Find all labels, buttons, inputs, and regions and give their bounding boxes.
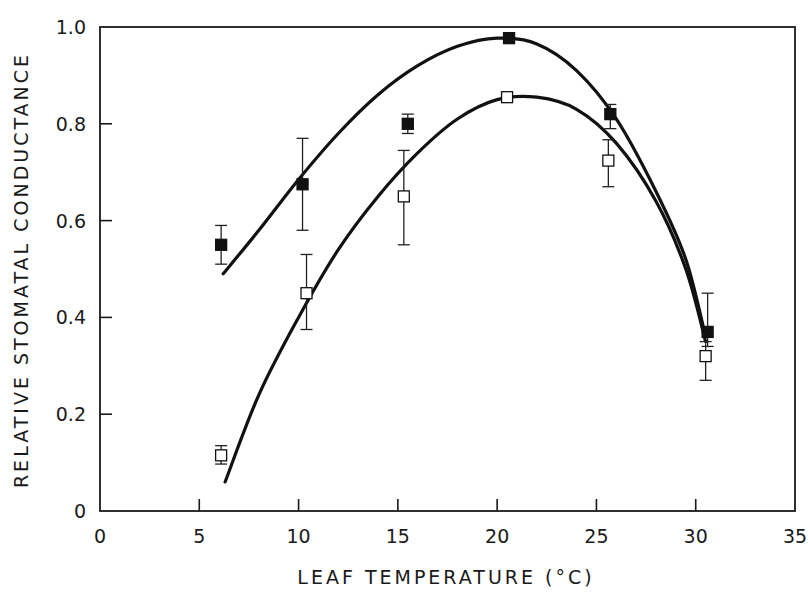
x-tick-label: 30 (684, 525, 708, 547)
fit-curve-open-square (225, 96, 706, 482)
filled-square-marker (702, 326, 713, 337)
open-square-marker (700, 351, 711, 362)
filled-square-marker (297, 179, 308, 190)
chart: 00.20.40.60.81.0 05101520253035 LEAF TEM… (0, 0, 808, 593)
y-axis-ticks: 00.20.40.60.81.0 (56, 16, 112, 522)
x-tick-label: 0 (94, 525, 106, 547)
filled-square-marker (605, 109, 616, 120)
filled-square-marker (402, 118, 413, 129)
open-square-marker (301, 288, 312, 299)
fit-curves (223, 38, 706, 482)
x-tick-label: 35 (783, 525, 807, 547)
x-tick-label: 25 (584, 525, 608, 547)
open-square-marker (398, 191, 409, 202)
y-tick-label: 0.4 (56, 306, 86, 328)
x-tick-label: 15 (386, 525, 410, 547)
filled-square-marker (504, 33, 515, 44)
plot-frame (100, 27, 795, 511)
x-tick-label: 20 (485, 525, 509, 547)
data-points (215, 33, 714, 464)
y-tick-label: 1.0 (56, 16, 86, 38)
x-axis-title: LEAF TEMPERATURE (°C) (297, 566, 594, 588)
open-square-marker (216, 450, 227, 461)
x-tick-label: 10 (286, 525, 310, 547)
open-square-marker (603, 155, 614, 166)
y-tick-label: 0.2 (56, 403, 86, 425)
y-axis-title: RELATIVE STOMATAL CONDUCTANCE (10, 52, 32, 488)
x-tick-label: 5 (193, 525, 205, 547)
y-tick-label: 0.8 (56, 113, 86, 135)
filled-square-marker (216, 239, 227, 250)
x-axis-ticks: 05101520253035 (94, 499, 807, 547)
fit-curve-filled-square (223, 38, 706, 337)
y-tick-label: 0.6 (56, 210, 86, 232)
open-square-marker (502, 92, 513, 103)
y-tick-label: 0 (74, 500, 86, 522)
plot-border (100, 27, 795, 511)
